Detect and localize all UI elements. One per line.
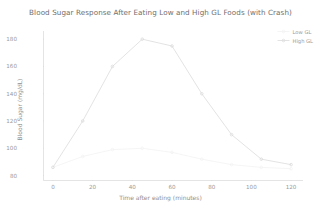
y-tick-label: 120: [0, 118, 17, 124]
y-tick-label: 160: [0, 63, 17, 69]
x-tick-label: 100: [236, 184, 266, 190]
legend-marker-icon: [277, 28, 290, 35]
x-tick-label: 120: [276, 184, 306, 190]
axis-ticks: [43, 39, 291, 181]
series-line: [53, 39, 291, 167]
y-axis-title: Blood Sugar (mg/dL): [16, 40, 23, 180]
chart-figure: Blood Sugar Response After Eating Low an…: [0, 0, 321, 214]
chart-title: Blood Sugar Response After Eating Low an…: [0, 8, 321, 17]
legend-label: High GL: [293, 38, 313, 44]
chart-legend: Low GLHigh GL: [275, 27, 315, 45]
plot-canvas: [43, 31, 303, 181]
plot-area: [43, 31, 303, 181]
y-tick-label: 140: [0, 91, 17, 97]
legend-label: Low GL: [293, 29, 312, 35]
data-point-marker: [52, 166, 55, 169]
x-tick-label: 60: [157, 184, 187, 190]
legend-item[interactable]: Low GL: [277, 28, 313, 35]
legend-marker-icon: [277, 37, 290, 44]
y-tick-label: 180: [0, 36, 17, 42]
x-axis-title: Time after eating (minutes): [0, 194, 321, 201]
y-tick-label: 100: [0, 145, 17, 151]
y-tick-label: 80: [0, 173, 17, 179]
x-tick-label: 20: [78, 184, 108, 190]
x-tick-label: 0: [38, 184, 68, 190]
data-series-layer: [52, 38, 293, 170]
x-tick-label: 40: [117, 184, 147, 190]
legend-item[interactable]: High GL: [277, 37, 313, 44]
x-tick-label: 80: [197, 184, 227, 190]
